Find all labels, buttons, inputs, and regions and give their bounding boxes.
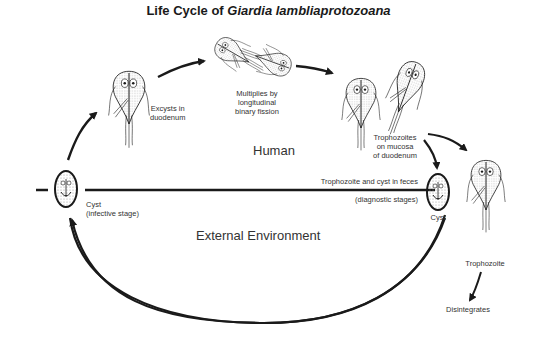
label-multiply: Multiplies by longitudinal binary fissio… <box>217 89 297 116</box>
label-cyst-left-line1: Cyst <box>86 200 139 209</box>
label-cyst-left: Cyst (infective stage) <box>86 200 139 218</box>
label-excyst-line1: Excysts in <box>150 104 185 113</box>
free-trophozoite <box>467 160 505 232</box>
arrow-to-disintegrates <box>470 272 481 300</box>
label-diagnostic: (diagnostic stages) <box>320 195 418 204</box>
label-mucosa-line1: Trophozoites <box>365 133 425 142</box>
infective-cyst <box>55 171 77 207</box>
label-multiply-line1: Multiplies by <box>217 89 297 98</box>
arrow-to-trophozoite <box>428 134 466 150</box>
label-trophozoite: Trophozoite <box>460 259 510 268</box>
label-excyst: Excysts in duodenum <box>150 104 185 122</box>
fecal-cyst <box>427 174 449 210</box>
arrow-to-cyst <box>424 140 437 168</box>
excysting-trophozoite <box>109 71 150 148</box>
label-multiply-line2: longitudinal <box>217 98 297 107</box>
region-external: External Environment <box>196 228 320 243</box>
label-mucosa: Trophozoites on mucosa of duodenum <box>365 133 425 160</box>
label-mucosa-line3: of duodenum <box>365 151 425 160</box>
label-cyst-right: Cyst <box>425 213 451 222</box>
arrow-to-multiply <box>158 61 204 77</box>
label-mucosa-line2: on mucosa <box>365 142 425 151</box>
life-cycle-diagram <box>0 0 537 337</box>
region-human: Human <box>253 143 295 158</box>
label-excyst-line2: duodenum <box>150 113 185 122</box>
label-disintegrates: Disintegrates <box>440 305 496 314</box>
arrow-to-mucosa <box>296 66 332 73</box>
label-cyst-left-line2: (infective stage) <box>86 209 139 218</box>
label-multiply-line3: binary fission <box>217 107 297 116</box>
label-feces: Trophozoite and cyst in feces <box>280 177 418 186</box>
mucosa-trophozoite-side <box>374 57 432 140</box>
arrow-to-excyst <box>68 113 96 160</box>
